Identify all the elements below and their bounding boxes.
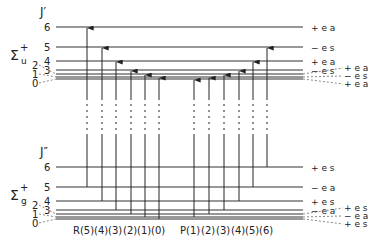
lower-j-label: J″ <box>39 145 49 159</box>
lower-symmetry-label: + e s <box>311 163 335 173</box>
branch-label-P: (6) <box>259 225 273 236</box>
branch-label-R: (1) <box>137 225 151 236</box>
upper-J-number: 6 <box>44 22 50 33</box>
upper-j-label: J′ <box>39 5 47 19</box>
branch-label-P: (4) <box>231 225 245 236</box>
lower-J-number: 5 <box>44 182 50 193</box>
upper-state-sup: + <box>20 42 28 53</box>
lower-state-sigma: Σ <box>10 187 19 203</box>
upper-state-sigma: Σ <box>10 47 19 63</box>
lower-symmetry-label: + e s <box>344 219 368 229</box>
branch-label-R: (2) <box>123 225 137 236</box>
branch-label-R: (3) <box>108 225 122 236</box>
upper-J-number: 3 <box>44 65 50 76</box>
branch-label-P: (2) <box>201 225 215 236</box>
branch-label-R: (4) <box>94 225 108 236</box>
branch-label-P: P(1) <box>180 225 200 236</box>
upper-symmetry-label: + e a <box>311 23 335 33</box>
branch-label-P: (3) <box>216 225 230 236</box>
lower-J-number: 3 <box>44 205 50 216</box>
leader-line <box>39 219 56 223</box>
upper-state-sub: u <box>21 56 27 66</box>
upper-J-number: 5 <box>44 42 50 53</box>
lower-levels: 6+ e s5− e a4+ e s3− e a2+ e s1− e a0+ e… <box>32 162 368 229</box>
branch-labels: R(5)(4)(3)(2)(1)(0)P(1)(2)(3)(4)(5)(6) <box>73 225 273 236</box>
branch-label-R: (0) <box>151 225 165 236</box>
leader-line <box>303 76 343 77</box>
leader-line <box>303 79 343 84</box>
upper-state-labels: J′ Σ + u <box>10 5 47 66</box>
upper-symmetry-label: + e a <box>344 79 368 89</box>
leader-line <box>303 216 343 217</box>
lower-state-sub: g <box>21 196 27 206</box>
lower-state-sup: + <box>20 182 28 193</box>
branch-label-P: (5) <box>245 225 259 236</box>
transitions <box>87 28 267 219</box>
lower-J-number: 6 <box>44 162 50 173</box>
leader-line <box>39 79 56 83</box>
upper-J-number: 0 <box>32 78 38 89</box>
lower-J-number: 0 <box>32 218 38 229</box>
upper-levels: 6+ e a5− e s4+ e a3− e s2+ e a1− e s0+ e… <box>32 22 368 89</box>
upper-symmetry-label: − e s <box>311 43 335 53</box>
lower-state-labels: J″ Σ + g <box>10 145 49 206</box>
leader-line <box>303 219 343 224</box>
energy-level-diagram: J′ Σ + u J″ Σ + g 6+ e a5− e s4+ e a3− e… <box>0 0 384 245</box>
lower-symmetry-label: − e a <box>311 183 335 193</box>
branch-label-R: R(5) <box>73 225 94 236</box>
